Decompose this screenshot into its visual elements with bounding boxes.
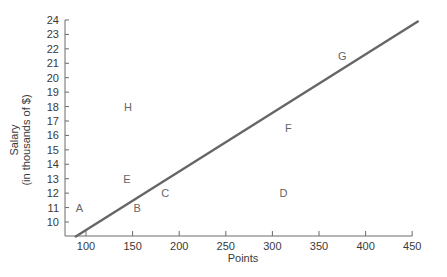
y-tick-label: 16: [47, 129, 59, 141]
y-tick-label: 12: [47, 187, 59, 199]
point-label-b: B: [134, 202, 141, 214]
x-tick-label: 250: [217, 240, 235, 252]
y-tick-label: 19: [47, 86, 59, 98]
y-tick-label: 20: [47, 72, 59, 84]
x-tick-label: 400: [356, 240, 374, 252]
y-tick-label: 13: [47, 173, 59, 185]
y-tick-label: 17: [47, 115, 59, 127]
y-axis-title-line2: (in thousands of $): [20, 94, 32, 185]
x-tick-label: 200: [170, 240, 188, 252]
trend-line: [76, 21, 418, 236]
x-tick-label: 300: [263, 240, 281, 252]
x-tick-label: 350: [310, 240, 328, 252]
point-label-f: F: [285, 122, 292, 134]
y-tick-label: 23: [47, 28, 59, 40]
y-axis-title-line1: Salary: [8, 124, 20, 156]
y-tick-label: 10: [47, 216, 59, 228]
y-tick-label: 21: [47, 57, 59, 69]
wage-line: [76, 21, 418, 236]
point-label-e: E: [123, 173, 130, 185]
x-tick-label: 150: [123, 240, 141, 252]
scatter-chart: 1011121314151617181920212223241001502002…: [0, 0, 447, 277]
y-tick-label: 22: [47, 43, 59, 55]
y-tick-label: 24: [47, 14, 59, 26]
y-axis-title: Salary (in thousands of $): [8, 94, 32, 185]
point-label-d: D: [280, 187, 288, 199]
point-label-c: C: [161, 187, 169, 199]
point-label-g: G: [338, 50, 347, 62]
x-tick-label: 100: [77, 240, 95, 252]
data-points: ABCDEFGH: [76, 50, 347, 214]
x-axis-title: Points: [228, 252, 259, 264]
y-tick-label: 14: [47, 158, 59, 170]
axes: 1011121314151617181920212223241001502002…: [47, 14, 422, 252]
x-tick-label: 450: [403, 240, 421, 252]
y-tick-label: 15: [47, 144, 59, 156]
y-tick-label: 11: [48, 202, 59, 214]
y-tick-label: 18: [47, 101, 59, 113]
point-label-a: A: [76, 202, 84, 214]
point-label-h: H: [124, 101, 132, 113]
